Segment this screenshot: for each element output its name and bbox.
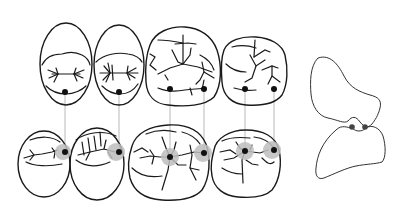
lower-premolar-2 [70,128,124,200]
lower-molar-2 [211,130,280,197]
dental-occlusion-diagram [0,0,402,213]
contact-dot [271,147,277,153]
contact-dot [62,149,68,155]
upper-tooth-profile [311,57,381,127]
contact-dot [271,86,277,92]
upper-molar-1 [146,27,221,106]
contact-dot [362,124,368,130]
contact-dot [242,86,248,92]
contact-dot [349,124,355,130]
contact-dot [167,86,173,92]
contact-dot [201,150,207,156]
profile-view [311,57,386,178]
contact-dot [242,148,248,154]
contact-dot [62,89,68,95]
contact-dot [201,86,207,92]
contact-dot [167,154,173,160]
lower-tooth-profile [316,126,385,178]
upper-teeth-row [40,23,287,106]
contact-dot [116,89,122,95]
lower-premolar-1 [18,131,70,197]
upper-molar-2 [221,37,287,105]
lower-teeth-row [18,125,281,200]
contact-dot [116,149,122,155]
